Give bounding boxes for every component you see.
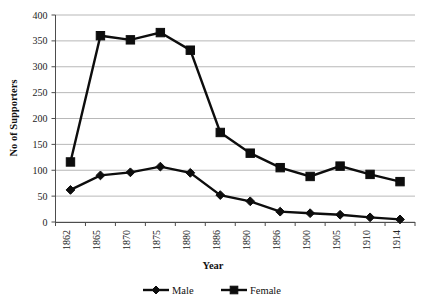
y-tick-label: 300	[33, 61, 48, 72]
data-point-female-1890	[246, 149, 254, 157]
x-tick-label: 1886	[211, 230, 222, 250]
x-tick-label: 1905	[331, 230, 342, 250]
data-point-female-1862	[66, 158, 74, 166]
data-point-male-1910	[366, 213, 375, 222]
data-point-female-1896	[276, 163, 284, 171]
y-tick-label: 250	[33, 87, 48, 98]
x-tick-label: 1890	[241, 230, 252, 250]
data-point-male-1890	[246, 197, 255, 206]
y-tick-label: 0	[43, 217, 48, 228]
data-point-male-1875	[156, 162, 165, 171]
y-tick-label: 200	[33, 113, 48, 124]
x-tick-label: 1900	[301, 230, 312, 250]
series-lines	[70, 33, 400, 220]
legend-marker-male	[152, 286, 160, 294]
data-point-female-1914	[396, 177, 404, 185]
x-tick-label: 1910	[361, 230, 372, 250]
x-tick-label: 1862	[61, 230, 72, 250]
x-tick-label: 1896	[271, 230, 282, 250]
x-tick-labels: 1862186518701875188018861890189619001905…	[61, 230, 402, 250]
data-point-male-1896	[276, 207, 285, 216]
legend-marker-female	[230, 286, 238, 294]
data-point-female-1870	[126, 36, 134, 44]
series-line-female	[70, 33, 400, 182]
gridlines	[56, 15, 416, 222]
x-tick-label: 1880	[181, 230, 192, 250]
y-axis-title: No of Supporters	[8, 79, 19, 156]
legend-label-female: Female	[250, 285, 281, 296]
series-markers	[66, 28, 404, 223]
data-point-female-1905	[336, 162, 344, 170]
y-tick-labels: 050100150200250300350400	[33, 10, 48, 228]
y-tick-label: 150	[33, 139, 48, 150]
data-point-male-1870	[126, 168, 135, 177]
chart-container: 050100150200250300350400 186218651870187…	[0, 0, 426, 302]
data-point-male-1865	[96, 171, 105, 180]
y-axis-title-text: No of Supporters	[8, 79, 19, 156]
supporters-line-chart: 050100150200250300350400 186218651870187…	[0, 0, 426, 302]
data-point-female-1910	[366, 170, 374, 178]
chart-legend: MaleFemale	[143, 285, 281, 296]
y-tick-marks	[52, 15, 56, 222]
data-point-male-1905	[336, 210, 345, 219]
y-tick-label: 400	[33, 10, 48, 21]
x-axis-title: Year	[203, 260, 224, 271]
data-point-female-1886	[216, 128, 224, 136]
legend-label-male: Male	[172, 285, 194, 296]
series-line-male	[70, 167, 400, 220]
data-point-female-1865	[96, 32, 104, 40]
x-tick-label: 1865	[91, 230, 102, 250]
data-point-male-1900	[306, 209, 315, 218]
data-point-female-1875	[156, 28, 164, 36]
y-tick-label: 100	[33, 165, 48, 176]
data-point-female-1880	[186, 46, 194, 54]
data-point-female-1900	[306, 172, 314, 180]
x-tick-label: 1875	[151, 230, 162, 250]
data-point-male-1862	[66, 186, 75, 195]
y-tick-label: 50	[38, 191, 48, 202]
x-axis-title-text: Year	[203, 260, 224, 271]
x-tick-label: 1870	[121, 230, 132, 250]
y-tick-label: 350	[33, 35, 48, 46]
x-tick-label: 1914	[391, 230, 402, 250]
